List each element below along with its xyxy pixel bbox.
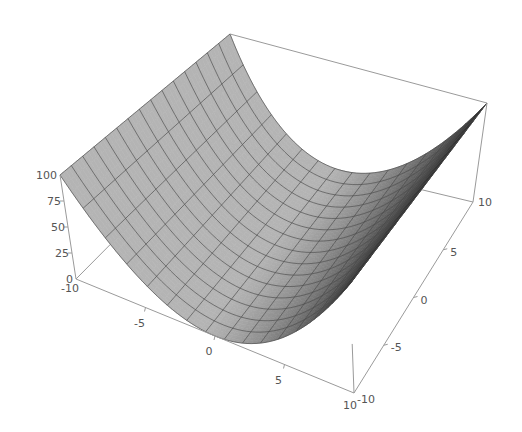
y-tick-label: 10 <box>478 196 492 209</box>
y-tick-label: -5 <box>391 341 402 354</box>
x-tick-mark <box>145 308 146 312</box>
z-tick-label: 0 <box>66 273 73 286</box>
x-tick-label: -5 <box>134 317 145 330</box>
x-tick-label: 0 <box>206 345 213 358</box>
surface-plot-3d: -10-50510 -10-50510 0255075100 <box>0 0 522 432</box>
x-tick-label: 10 <box>343 399 357 412</box>
y-tick-label: 5 <box>450 246 457 259</box>
box-edge-back-top <box>230 34 487 103</box>
x-tick-mark <box>214 336 215 340</box>
x-tick-mark <box>284 365 285 369</box>
y-tick-label: 0 <box>421 294 428 307</box>
z-tick-label: 50 <box>51 221 65 234</box>
y-tick-label: -10 <box>357 393 375 406</box>
z-tick-label: 75 <box>47 195 61 208</box>
z-tick-label: 25 <box>55 247 69 260</box>
x-tick-label: 5 <box>275 374 282 387</box>
box-edge-front-vertical <box>352 344 354 393</box>
z-tick-label: 100 <box>36 169 57 182</box>
